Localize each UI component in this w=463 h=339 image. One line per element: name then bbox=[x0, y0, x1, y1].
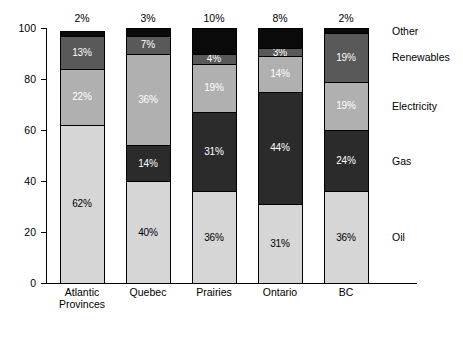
bar-ontario: 3%14%44%31% bbox=[258, 28, 303, 283]
bar-segment-renewables: 13% bbox=[60, 36, 105, 69]
segment-value-label: 4% bbox=[207, 54, 221, 64]
bar-atlantic-provinces: 13%22%62% bbox=[60, 31, 105, 283]
legend-label-gas: Gas bbox=[392, 156, 411, 167]
bar-segment-gas: 24% bbox=[324, 130, 369, 191]
bar-segment-other bbox=[192, 28, 237, 54]
segment-value-label: 36% bbox=[204, 233, 224, 243]
bar-segment-renewables: 7% bbox=[126, 36, 171, 54]
legend-label-other: Other bbox=[392, 26, 418, 37]
bar-segment-other bbox=[126, 28, 171, 36]
y-tick-label-40: 40 bbox=[6, 176, 36, 186]
segment-value-label: 13% bbox=[72, 48, 92, 58]
bar-quebec: 7%36%14%40% bbox=[126, 28, 171, 283]
segment-value-label: 14% bbox=[270, 69, 290, 79]
x-axis-line bbox=[46, 283, 417, 284]
segment-value-label: 31% bbox=[270, 239, 290, 249]
bar-segment-gas: 14% bbox=[126, 145, 171, 181]
bar-segment-renewables: 3% bbox=[258, 48, 303, 56]
plot-area: 13%22%62%7%36%14%40%4%19%31%36%3%14%44%3… bbox=[46, 28, 386, 283]
stacked-bar-chart: 020406080100 13%22%62%7%36%14%40%4%19%31… bbox=[0, 0, 463, 339]
segment-value-label: 36% bbox=[336, 233, 356, 243]
segment-value-label: 22% bbox=[72, 92, 92, 102]
category-label-line: BC bbox=[301, 287, 391, 299]
segment-value-label: 36% bbox=[138, 95, 158, 105]
bar-segment-renewables: 4% bbox=[192, 54, 237, 64]
legend-label-renewables: Renewables bbox=[392, 52, 450, 63]
bar-segment-oil: 40% bbox=[126, 181, 171, 283]
segment-value-label: 19% bbox=[204, 83, 224, 93]
bar-segment-electricity: 36% bbox=[126, 54, 171, 146]
bar-segment-electricity: 19% bbox=[324, 82, 369, 130]
category-label-bc: BC bbox=[301, 287, 391, 299]
top-annotation-atlantic-provinces: 2% bbox=[50, 13, 114, 24]
category-label-line: Provinces bbox=[37, 299, 127, 311]
bar-segment-gas: 44% bbox=[258, 92, 303, 204]
segment-value-label: 31% bbox=[204, 147, 224, 157]
bar-segment-oil: 36% bbox=[324, 191, 369, 283]
top-annotation-prairies: 10% bbox=[182, 13, 246, 24]
y-tick-0 bbox=[41, 283, 46, 284]
y-tick-label-80: 80 bbox=[6, 74, 36, 84]
segment-value-label: 24% bbox=[336, 156, 356, 166]
top-annotation-quebec: 3% bbox=[116, 13, 180, 24]
top-annotation-ontario: 8% bbox=[248, 13, 312, 24]
bar-segment-renewables: 19% bbox=[324, 33, 369, 81]
y-tick-label-60: 60 bbox=[6, 125, 36, 135]
bar-segment-gas: 31% bbox=[192, 112, 237, 191]
bar-segment-oil: 36% bbox=[192, 191, 237, 283]
segment-value-label: 14% bbox=[138, 159, 158, 169]
segment-value-label: 19% bbox=[336, 53, 356, 63]
segment-value-label: 44% bbox=[270, 143, 290, 153]
bar-segment-electricity: 19% bbox=[192, 64, 237, 112]
y-tick-label-20: 20 bbox=[6, 227, 36, 237]
bar-segment-electricity: 14% bbox=[258, 56, 303, 92]
bar-bc: 19%19%24%36% bbox=[324, 28, 369, 283]
segment-value-label: 40% bbox=[138, 228, 158, 238]
bar-segment-oil: 31% bbox=[258, 204, 303, 283]
legend-label-electricity: Electricity bbox=[392, 101, 437, 112]
top-annotation-bc: 2% bbox=[314, 13, 378, 24]
segment-value-label: 7% bbox=[141, 40, 155, 50]
bar-prairies: 4%19%31%36% bbox=[192, 28, 237, 283]
legend-label-oil: Oil bbox=[392, 232, 405, 243]
y-tick-label-100: 100 bbox=[6, 23, 36, 33]
segment-value-label: 3% bbox=[273, 48, 287, 56]
segment-value-label: 62% bbox=[72, 199, 92, 209]
y-tick-label-0: 0 bbox=[6, 278, 36, 288]
bar-segment-other bbox=[258, 28, 303, 48]
segment-value-label: 19% bbox=[336, 101, 356, 111]
bar-segment-oil: 62% bbox=[60, 125, 105, 283]
bar-segment-electricity: 22% bbox=[60, 69, 105, 125]
